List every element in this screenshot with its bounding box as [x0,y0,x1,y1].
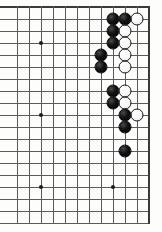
white-stone[interactable] [131,109,144,122]
white-stone[interactable] [119,61,132,74]
go-board-diagram: Go board position diagram Partial Go boa… [0,0,162,232]
stone-layer [0,0,162,232]
black-stone[interactable] [119,145,132,158]
black-stone[interactable] [119,121,132,134]
white-stone[interactable] [131,13,144,26]
black-stone[interactable] [95,61,108,74]
